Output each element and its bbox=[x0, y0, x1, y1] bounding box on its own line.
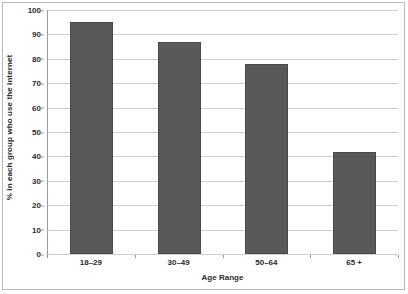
bar bbox=[245, 64, 288, 254]
y-axis-tickmark bbox=[41, 254, 44, 255]
y-axis-tick-label: 90 bbox=[32, 30, 41, 39]
bar bbox=[158, 42, 201, 254]
y-axis-tick-label: 50 bbox=[32, 128, 41, 137]
y-axis-tickmark bbox=[41, 181, 44, 182]
bar-slot bbox=[223, 10, 311, 254]
y-axis-tick-label: 10 bbox=[32, 225, 41, 234]
chart-figure: % in each group who use the internet 010… bbox=[0, 0, 408, 294]
y-axis-tick-label: 20 bbox=[32, 201, 41, 210]
y-axis-tick-label: 30 bbox=[32, 176, 41, 185]
y-axis-tick-label: 70 bbox=[32, 79, 41, 88]
y-axis-tickmark bbox=[41, 59, 44, 60]
x-axis-title: Age Range bbox=[47, 273, 398, 282]
y-axis-tickmark bbox=[41, 156, 44, 157]
y-axis-tickmark bbox=[41, 83, 44, 84]
x-axis-tickmark bbox=[398, 255, 399, 258]
y-axis-tick-labels: 0102030405060708090100 bbox=[18, 10, 44, 255]
y-axis-tickmark bbox=[41, 205, 44, 206]
x-axis-tick-label: 65 + bbox=[310, 258, 398, 272]
y-axis-tickmark bbox=[41, 34, 44, 35]
x-axis-tick-label: 30–49 bbox=[135, 258, 223, 272]
y-axis-tick-label: 100 bbox=[28, 6, 41, 15]
bar-slot bbox=[136, 10, 224, 254]
y-axis-tick-label: 40 bbox=[32, 152, 41, 161]
y-axis-tick-label: 60 bbox=[32, 103, 41, 112]
x-axis-tick-label: 50–64 bbox=[223, 258, 311, 272]
bar bbox=[70, 22, 113, 254]
bar-slot bbox=[48, 10, 136, 254]
y-axis-tickmark bbox=[41, 132, 44, 133]
y-axis-tick-label: 80 bbox=[32, 54, 41, 63]
y-axis-title-label: % in each group who use the internet bbox=[6, 55, 15, 200]
y-axis-tickmark bbox=[41, 10, 44, 11]
x-axis-tick-labels: 18–2930–4950–6465 + bbox=[47, 258, 398, 272]
x-axis-tick-label: 18–29 bbox=[47, 258, 135, 272]
bar bbox=[333, 152, 376, 254]
bar-slot bbox=[311, 10, 399, 254]
bar-series bbox=[48, 10, 398, 254]
y-axis-tickmark bbox=[41, 230, 44, 231]
plot-area bbox=[47, 10, 398, 255]
y-axis-title: % in each group who use the internet bbox=[2, 0, 18, 255]
y-axis-tick-label: 0 bbox=[37, 250, 41, 259]
y-axis-tickmark bbox=[41, 108, 44, 109]
